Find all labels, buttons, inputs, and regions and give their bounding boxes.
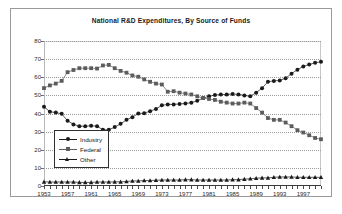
y-tick-label: 50 [34, 92, 41, 98]
data-point [284, 76, 288, 80]
data-point [89, 66, 93, 70]
data-point [296, 128, 300, 132]
data-point [242, 93, 246, 97]
chart-title: National R&D Expenditures, By Source of … [11, 17, 331, 24]
data-point [166, 102, 170, 106]
x-tick-mark [44, 186, 45, 189]
x-tick-label: 1989 [249, 191, 262, 197]
data-point [101, 64, 105, 68]
y-tick-label: 40 [34, 111, 41, 117]
data-point [319, 137, 323, 141]
data-point [178, 91, 182, 95]
data-point [248, 94, 252, 98]
x-tick-mark [109, 186, 110, 189]
x-tick-mark [268, 186, 269, 189]
y-tick-label: 70 [34, 56, 41, 62]
data-point [236, 92, 240, 96]
data-point [278, 118, 282, 122]
x-tick-mark [132, 186, 133, 189]
data-point [66, 70, 70, 74]
x-tick-mark [79, 186, 80, 189]
y-tick-label: 20 [34, 147, 41, 153]
data-point [54, 111, 58, 115]
data-point [83, 66, 87, 70]
data-point [189, 101, 193, 105]
data-point [225, 101, 229, 105]
legend-marker-triangle-icon [59, 155, 77, 164]
data-point [54, 82, 58, 86]
data-point [119, 69, 123, 73]
plot-area: 01020304050607080 1953195719611965196919… [44, 41, 321, 186]
data-point [254, 106, 258, 110]
data-point [148, 80, 152, 84]
legend-label: Other [80, 156, 95, 163]
data-point [130, 115, 134, 119]
data-point [136, 75, 140, 79]
data-point [42, 86, 46, 90]
legend-item-federal[interactable]: Federal [59, 144, 102, 154]
data-point [184, 92, 188, 96]
data-point [42, 105, 46, 109]
data-point [142, 78, 146, 82]
data-point [95, 124, 99, 128]
x-tick-mark [138, 186, 139, 189]
x-tick-label: 1953 [37, 191, 50, 197]
data-point [48, 110, 52, 114]
data-point [260, 86, 264, 90]
legend-label: Federal [80, 146, 101, 153]
data-point [77, 124, 81, 128]
data-point [201, 96, 205, 100]
x-tick-label: 1997 [297, 191, 310, 197]
data-point [301, 131, 305, 135]
data-point [219, 100, 223, 104]
x-tick-mark [162, 186, 163, 189]
chart-legend: IndustryFederalOther [54, 130, 109, 168]
data-point [278, 79, 282, 83]
data-point [72, 68, 76, 72]
data-point [272, 79, 276, 83]
data-point [154, 82, 158, 86]
y-tick-label: 60 [34, 74, 41, 80]
data-point [237, 102, 241, 106]
x-tick-mark [73, 186, 74, 189]
data-point [66, 119, 70, 123]
data-point [307, 133, 311, 137]
legend-marker-circle-icon [59, 135, 77, 144]
data-point [71, 122, 75, 126]
data-point [183, 102, 187, 106]
x-tick-mark [168, 186, 169, 189]
legend-label: Industry [80, 136, 102, 143]
x-tick-mark [292, 186, 293, 189]
data-point [195, 99, 199, 103]
x-tick-mark [286, 186, 287, 189]
data-point [231, 92, 235, 96]
x-tick-mark [191, 186, 192, 189]
data-point [77, 66, 81, 70]
x-tick-mark [97, 186, 98, 189]
legend-marker-square-icon [59, 145, 77, 154]
data-point [83, 124, 87, 128]
x-tick-mark [185, 186, 186, 189]
y-tick-label: 80 [34, 38, 41, 44]
data-point [125, 118, 129, 122]
data-point [172, 89, 176, 93]
x-tick-mark [180, 186, 181, 189]
x-tick-mark [309, 186, 310, 189]
x-tick-mark [221, 186, 222, 189]
x-tick-mark [127, 186, 128, 189]
x-tick-mark [56, 186, 57, 189]
data-point [319, 60, 323, 64]
data-point [213, 93, 217, 97]
x-tick-label: 1993 [273, 191, 286, 197]
data-point [107, 63, 111, 67]
legend-item-other[interactable]: Other [59, 154, 102, 164]
data-point [113, 66, 117, 70]
x-tick-mark [150, 186, 151, 189]
x-tick-mark [68, 186, 69, 189]
data-point [142, 111, 146, 115]
legend-item-industry[interactable]: Industry [59, 134, 102, 144]
x-tick-mark [297, 186, 298, 189]
data-point [119, 122, 123, 126]
x-tick-mark [233, 186, 234, 189]
x-tick-mark [156, 186, 157, 189]
